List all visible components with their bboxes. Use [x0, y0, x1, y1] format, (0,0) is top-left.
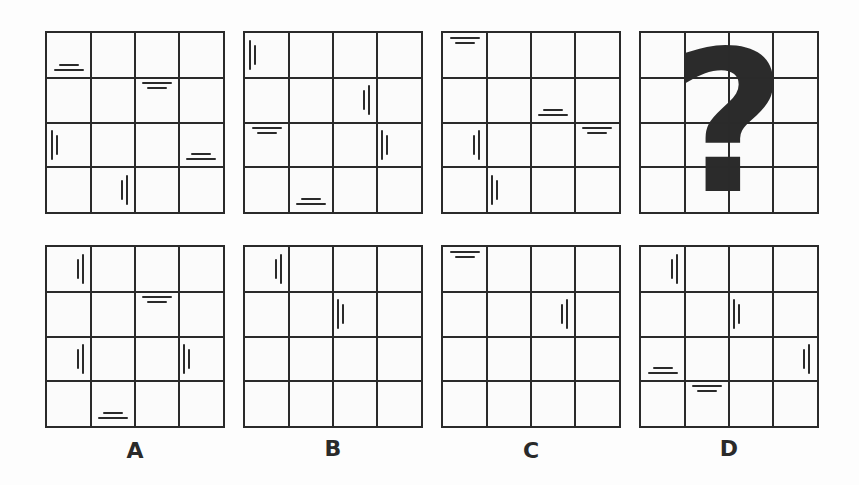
sequence-grid-1	[45, 31, 225, 214]
grid-line	[443, 336, 619, 338]
grid-line	[443, 166, 619, 168]
grid-line	[245, 166, 421, 168]
option-grid-a[interactable]	[45, 245, 225, 428]
grid-line	[574, 33, 576, 212]
grid-line	[178, 33, 180, 212]
option-grid-d[interactable]	[639, 245, 819, 428]
option-label-c[interactable]: C	[441, 438, 621, 463]
option-grid-b[interactable]	[243, 245, 423, 428]
grid-line	[245, 336, 421, 338]
grid-line	[178, 247, 180, 426]
grid-line	[772, 33, 774, 212]
grid-line	[245, 122, 421, 124]
grid-line	[376, 247, 378, 426]
grid-line	[47, 336, 223, 338]
grid-line	[47, 122, 223, 124]
grid-line	[641, 380, 817, 382]
sequence-grid-2	[243, 31, 423, 214]
option-label-d[interactable]: D	[639, 436, 819, 461]
option-grid-c[interactable]	[441, 245, 621, 428]
grid-line	[245, 380, 421, 382]
grid-line	[641, 336, 817, 338]
grid-line	[772, 247, 774, 426]
grid-line	[641, 122, 817, 124]
grid-line	[47, 166, 223, 168]
sequence-grid-question: ?	[639, 31, 819, 214]
grid-line	[574, 247, 576, 426]
grid-line	[641, 166, 817, 168]
option-label-b[interactable]: B	[243, 436, 423, 461]
option-label-a[interactable]: A	[45, 438, 225, 463]
grid-line	[443, 380, 619, 382]
grid-line	[443, 122, 619, 124]
sequence-grid-3	[441, 31, 621, 214]
grid-line	[47, 380, 223, 382]
grid-line	[376, 33, 378, 212]
